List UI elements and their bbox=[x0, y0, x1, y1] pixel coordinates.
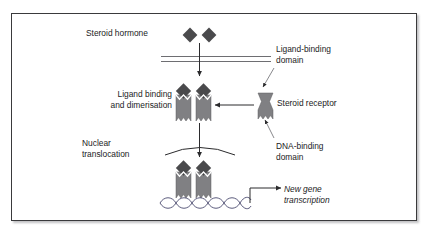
receptor-dimer-cytoplasm-right bbox=[196, 83, 211, 121]
label-steroid-receptor: Steroid receptor bbox=[277, 98, 337, 109]
receptor-dimer-nucleus-left bbox=[176, 160, 191, 198]
dna-double-helix bbox=[160, 197, 251, 208]
pointer-dna-binding-domain bbox=[265, 120, 274, 138]
label-steroid-hormone: Steroid hormone bbox=[86, 28, 148, 39]
label-ligand-binding-and-dimerisation: Ligand binding and dimerisation bbox=[80, 89, 172, 111]
plasma-membrane bbox=[161, 57, 271, 62]
pointer-ligand-binding-domain bbox=[263, 68, 274, 87]
label-dna-binding-domain: DNA-binding domain bbox=[276, 141, 323, 163]
arrow-transcription bbox=[250, 188, 281, 203]
hormone-ligand-left bbox=[183, 28, 198, 43]
receptor-dimer-nucleus-right bbox=[196, 160, 211, 198]
diagram-canvas bbox=[0, 0, 441, 238]
label-new-gene-transcription: New gene transcription bbox=[284, 184, 330, 206]
receptor-dimer-cytoplasm-left bbox=[176, 83, 191, 121]
hormone-ligand-right bbox=[202, 28, 217, 43]
label-nuclear-translocation: Nuclear translocation bbox=[82, 138, 130, 160]
label-ligand-binding-domain: Ligand-binding domain bbox=[276, 44, 331, 66]
receptor-free bbox=[258, 93, 273, 119]
figure-root: Steroid hormone Ligand binding and dimer… bbox=[0, 0, 441, 238]
